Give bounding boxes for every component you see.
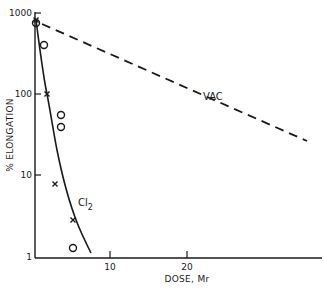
cl2-label: Cl2 xyxy=(78,197,93,212)
y-axis-title: % ELONGATION xyxy=(5,98,15,172)
circle-marker xyxy=(58,124,65,131)
circle-marker xyxy=(58,112,65,119)
x-marker xyxy=(53,182,58,187)
y-tick-100: 100 xyxy=(15,89,32,99)
x-axis-title: DOSE, Mr xyxy=(164,274,209,284)
x-ticks: 10 20 xyxy=(104,251,193,272)
x-tick-10: 10 xyxy=(104,262,116,272)
elongation-vs-dose-chart: 1000 100 10 1 10 20 DOSE, Mr % ELONGATIO… xyxy=(0,0,324,290)
cl2-curve xyxy=(36,20,91,253)
y-tick-10: 10 xyxy=(21,170,33,180)
vac-label: VAC xyxy=(203,91,223,102)
circle-marker xyxy=(41,42,48,49)
y-tick-1: 1 xyxy=(26,252,32,262)
circle-marker xyxy=(70,245,77,252)
x-marker xyxy=(71,218,76,223)
x-tick-20: 20 xyxy=(181,262,193,272)
vac-line xyxy=(42,24,307,141)
y-tick-1000: 1000 xyxy=(9,8,32,18)
